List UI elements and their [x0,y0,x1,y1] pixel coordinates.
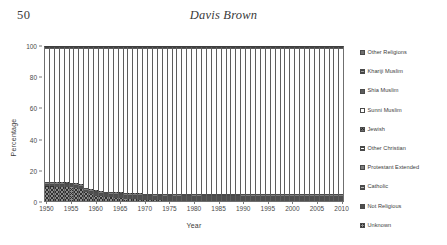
bar-series-container [45,47,343,201]
legend-item[interactable]: Not Religious [360,204,401,210]
bar-segment [138,200,142,201]
bar-segment [271,49,275,194]
bar-segment [158,49,162,194]
bar-segment [325,196,329,201]
bar-segment [271,196,275,201]
bar-segment [158,200,162,201]
bar-segment [276,196,280,201]
bar-segment [128,49,132,193]
author-running-head: Davis Brown [0,8,447,23]
bar-segment [202,49,206,194]
bar-segment [173,49,177,194]
bar-segment [84,49,88,188]
legend-item[interactable]: Sunni Muslim [360,108,402,114]
y-axis-tick-mark [39,139,42,140]
bar-segment [310,196,314,201]
bar-segment [192,49,196,194]
bar-segment [295,49,299,194]
x-axis-tick-label: 2010 [334,205,348,212]
legend-item-label: Sunni Muslim [368,108,402,114]
bar-segment [153,200,157,201]
bar-segment [231,49,235,194]
bar-segment [197,49,201,194]
bar-segment [94,196,98,202]
legend-swatch-icon [360,69,365,74]
bar-segment [163,49,167,194]
legend-item[interactable]: Jewish [360,127,385,133]
bar-segment [251,49,255,194]
bar-segment [50,49,54,182]
bar-segment [79,49,83,185]
legend-swatch-icon [360,89,365,94]
bar-segment [84,192,88,201]
legend-item-label: Protestant Extended [368,165,420,171]
bar-segment [114,198,118,201]
x-axis-tick-mark [145,202,146,204]
x-axis-tick-label: 1980 [187,205,201,212]
bar-segment [187,49,191,194]
y-axis-tick-label: 100 [26,43,37,50]
legend-item[interactable]: Catholic [360,184,388,190]
legend-swatch-icon [360,108,365,113]
bar-segment [290,49,294,194]
bar-segment [315,196,319,201]
x-axis-tick-label: 1970 [138,205,152,212]
bar-segment [60,49,64,183]
y-axis-tick-label: 80 [30,74,37,81]
bar-segment [222,49,226,194]
bar-segment [55,187,59,201]
bar-segment [177,49,181,194]
legend-item-label: Other Christian [368,146,406,152]
y-axis-tick-mark [39,202,42,203]
bar-segment [138,49,142,194]
bar-segment [217,49,221,194]
legend-item[interactable]: Protestant Extended [360,165,419,171]
bar-segment [334,196,338,201]
legend-swatch-icon [360,223,365,228]
bar-segment [330,49,334,194]
x-axis-tick-mark [194,202,195,204]
bar-segment [266,49,270,194]
legend-item[interactable]: Other Religions [360,50,407,56]
bar-segment [325,49,329,194]
bar-segment [241,49,245,194]
legend-item[interactable]: Khariji Muslim [360,69,403,75]
bar-segment [65,187,69,201]
plot-area [44,46,344,202]
bar-segment [143,49,147,194]
legend-item[interactable]: Unknown [360,223,391,229]
bar-segment [79,189,83,201]
legend-item-label: Jewish [368,127,385,133]
bar-segment [236,49,240,194]
bar-segment [65,49,69,183]
x-axis-tick-label: 1985 [211,205,225,212]
legend-item[interactable]: Shia Muslim [360,88,399,94]
y-axis-title: Percentage [10,103,17,173]
bar-segment [276,49,280,194]
x-axis-tick-label: 1975 [162,205,176,212]
legend-item[interactable]: Other Christian [360,146,406,152]
y-axis: Percentage 020406080100 [0,46,42,202]
x-axis-tick-label: 1950 [39,205,53,212]
x-axis-tick-mark [268,202,269,204]
bar-segment [212,49,216,194]
bar-segment [330,196,334,201]
bar-segment [133,49,137,194]
bar-segment [251,196,255,201]
bar-segment [339,196,343,201]
legend-swatch-icon [360,50,365,55]
bar-segment [300,196,304,201]
bar-segment [261,196,265,201]
bar-segment [143,200,147,201]
y-axis-tick-label: 40 [30,136,37,143]
x-axis-tick-label: 1995 [261,205,275,212]
bar-segment [99,49,103,191]
y-axis-tick-label: 60 [30,105,37,112]
x-axis-tick-label: 2005 [310,205,324,212]
y-axis-tick-mark [39,46,42,47]
bar-segment [305,196,309,201]
bar-segment [315,49,319,194]
bar-segment [281,196,285,201]
x-axis-tick-label: 1955 [64,205,78,212]
bar-segment [285,49,289,194]
